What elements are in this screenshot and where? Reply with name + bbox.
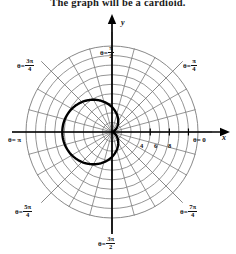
denominator: 4: [191, 65, 197, 73]
denominator: 4: [188, 211, 197, 219]
numerator: π: [191, 58, 197, 65]
y-axis-label: y: [121, 18, 125, 27]
theta-label-3pi-over-2: θ=3π2: [98, 236, 115, 250]
grid-spoke: [28, 132, 112, 154]
theta-value: π: [17, 137, 21, 144]
radial-tick-4: 4: [140, 142, 143, 149]
numerator: 7π: [188, 204, 197, 211]
grid-spoke: [41, 132, 112, 203]
fraction: 3π2: [106, 236, 115, 250]
denominator: 2: [106, 243, 115, 251]
caption-text: The graph will be a cardioid.: [0, 0, 236, 8]
equals-sign: =: [102, 241, 106, 248]
fraction: 5π4: [23, 204, 32, 218]
equals-sign: =: [184, 209, 188, 216]
grid-spoke: [112, 61, 183, 132]
y-axis-arrowhead: [108, 14, 116, 24]
numerator: 3π: [25, 58, 34, 65]
grid-spoke: [28, 110, 112, 132]
grid-spoke: [112, 48, 134, 132]
equals-sign: =: [104, 50, 108, 57]
theta-label-7pi-over-4: θ=7π4: [180, 204, 197, 218]
polar-plot-svg: [0, 10, 236, 254]
equals-sign: =: [197, 137, 201, 144]
grid-spoke: [41, 61, 112, 132]
equals-sign: =: [19, 209, 23, 216]
grid-spoke: [90, 132, 112, 216]
x-axis-label: x: [222, 133, 226, 142]
numerator: π: [108, 45, 114, 52]
equals-sign: =: [12, 137, 16, 144]
grid-spoke: [112, 132, 183, 203]
theta-label-pi-over-2: θ=π2: [100, 45, 114, 59]
grid-spoke: [112, 132, 134, 216]
fraction: π4: [191, 58, 197, 72]
fraction: 7π4: [188, 204, 197, 218]
figure-page: The graph will be a cardioid. y x 4 6 8 …: [0, 0, 236, 254]
denominator: 4: [23, 211, 32, 219]
numerator: 5π: [23, 204, 32, 211]
theta-label-0: θ=0: [193, 137, 206, 144]
theta-label-3pi-over-4: θ=3π4: [17, 58, 34, 72]
theta-label-pi: θ=π: [8, 137, 21, 144]
theta-label-5pi-over-4: θ=5π4: [15, 204, 32, 218]
radial-tick-6: 6: [154, 142, 157, 149]
denominator: 2: [108, 52, 114, 60]
polar-graph-figure: y x 4 6 8 θ=π2 θ=π4 θ=3π4 θ=π θ=5π4 θ=3π…: [0, 10, 236, 254]
theta-label-pi-over-4: θ=π4: [183, 58, 197, 72]
numerator: 3π: [106, 236, 115, 243]
fraction: π2: [108, 45, 114, 59]
equals-sign: =: [187, 63, 191, 70]
equals-sign: =: [21, 63, 25, 70]
denominator: 4: [25, 65, 34, 73]
theta-value: 0: [202, 137, 206, 144]
grid-spoke: [112, 110, 196, 132]
radial-tick-8: 8: [168, 142, 171, 149]
grid-spoke: [90, 48, 112, 132]
fraction: 3π4: [25, 58, 34, 72]
